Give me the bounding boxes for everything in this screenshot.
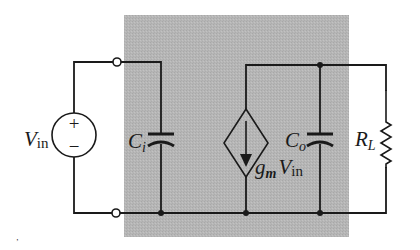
resistor-rl-icon (381, 90, 391, 168)
junction-dot (158, 210, 164, 216)
junction-dot (317, 62, 323, 68)
plus-sign: + (69, 113, 80, 134)
vin-label: Vin (24, 127, 49, 151)
voltage-source-icon: + − (52, 113, 96, 157)
input-terminal-bottom (112, 209, 120, 217)
amplifier-shaded-region (124, 15, 349, 237)
input-terminal-top (113, 58, 121, 66)
wire-source-top (74, 62, 113, 113)
rl-label: RL (354, 127, 376, 153)
wire-source-bottom (74, 157, 112, 213)
junction-dot (243, 210, 249, 216)
circuit-diagram: + − Vin Ci gmVin Co RL ’ (0, 0, 420, 250)
junction-dot (317, 210, 323, 216)
stray-mark: ’ (16, 238, 19, 247)
minus-sign: − (69, 136, 80, 157)
